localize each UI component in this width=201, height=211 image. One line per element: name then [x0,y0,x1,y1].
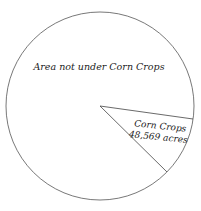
label-area-not-corn: Area not under Corn Crops [32,61,164,72]
pie-chart: Area not under Corn Crops Corn Crops 48,… [0,0,201,211]
